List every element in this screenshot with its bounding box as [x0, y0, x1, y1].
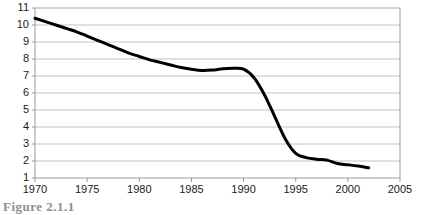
line-chart [0, 0, 424, 200]
y-tick-label-2: 2 [7, 155, 29, 166]
x-tick-label-1980: 1980 [119, 184, 159, 195]
x-tick-label-1970: 1970 [15, 184, 55, 195]
y-tick-label-8: 8 [7, 53, 29, 64]
x-tick-label-1995: 1995 [276, 184, 316, 195]
figure-root: 1110987654321 19701975198019851990199520… [0, 0, 424, 215]
x-tick-label-1990: 1990 [224, 184, 264, 195]
y-tick-label-4: 4 [7, 121, 29, 132]
x-tick-label-1985: 1985 [171, 184, 211, 195]
y-tick-label-3: 3 [7, 138, 29, 149]
x-tick-label-2005: 2005 [380, 184, 420, 195]
y-tick-label-11: 11 [7, 2, 29, 13]
y-tick-label-10: 10 [7, 19, 29, 30]
figure-caption-fragment: Figure 2.1.1 [3, 199, 75, 215]
y-tick-label-1: 1 [7, 172, 29, 183]
y-tick-label-5: 5 [7, 104, 29, 115]
y-tick-label-9: 9 [7, 36, 29, 47]
x-tick-label-1975: 1975 [67, 184, 107, 195]
x-tick-marks [35, 178, 400, 182]
y-tick-label-7: 7 [7, 70, 29, 81]
y-tick-label-6: 6 [7, 87, 29, 98]
x-tick-label-2000: 2000 [328, 184, 368, 195]
